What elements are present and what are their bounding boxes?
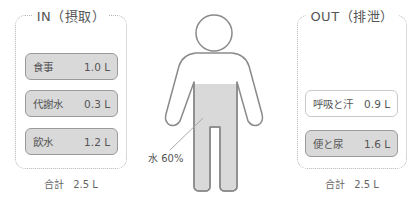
out-item-value: 0.9 L — [364, 98, 390, 110]
out-item-label: 呼吸と汗 — [313, 96, 353, 111]
out-total-label: 合計 — [325, 179, 345, 190]
head-icon — [196, 15, 232, 51]
out-total-value: 2.5 L — [354, 179, 379, 190]
out-panel-title: OUT（排泄） — [306, 9, 397, 24]
water-fill — [195, 84, 236, 190]
out-item-value: 1.6 L — [364, 138, 390, 150]
out-item-label: 便と尿 — [313, 136, 343, 151]
water-percentage-label: 水 60% — [148, 150, 183, 165]
out-total: 合計2.5 L — [297, 176, 407, 191]
out-item-stool-urine: 便と尿 1.6 L — [305, 130, 398, 157]
out-item-breath-sweat: 呼吸と汗 0.9 L — [305, 90, 398, 117]
